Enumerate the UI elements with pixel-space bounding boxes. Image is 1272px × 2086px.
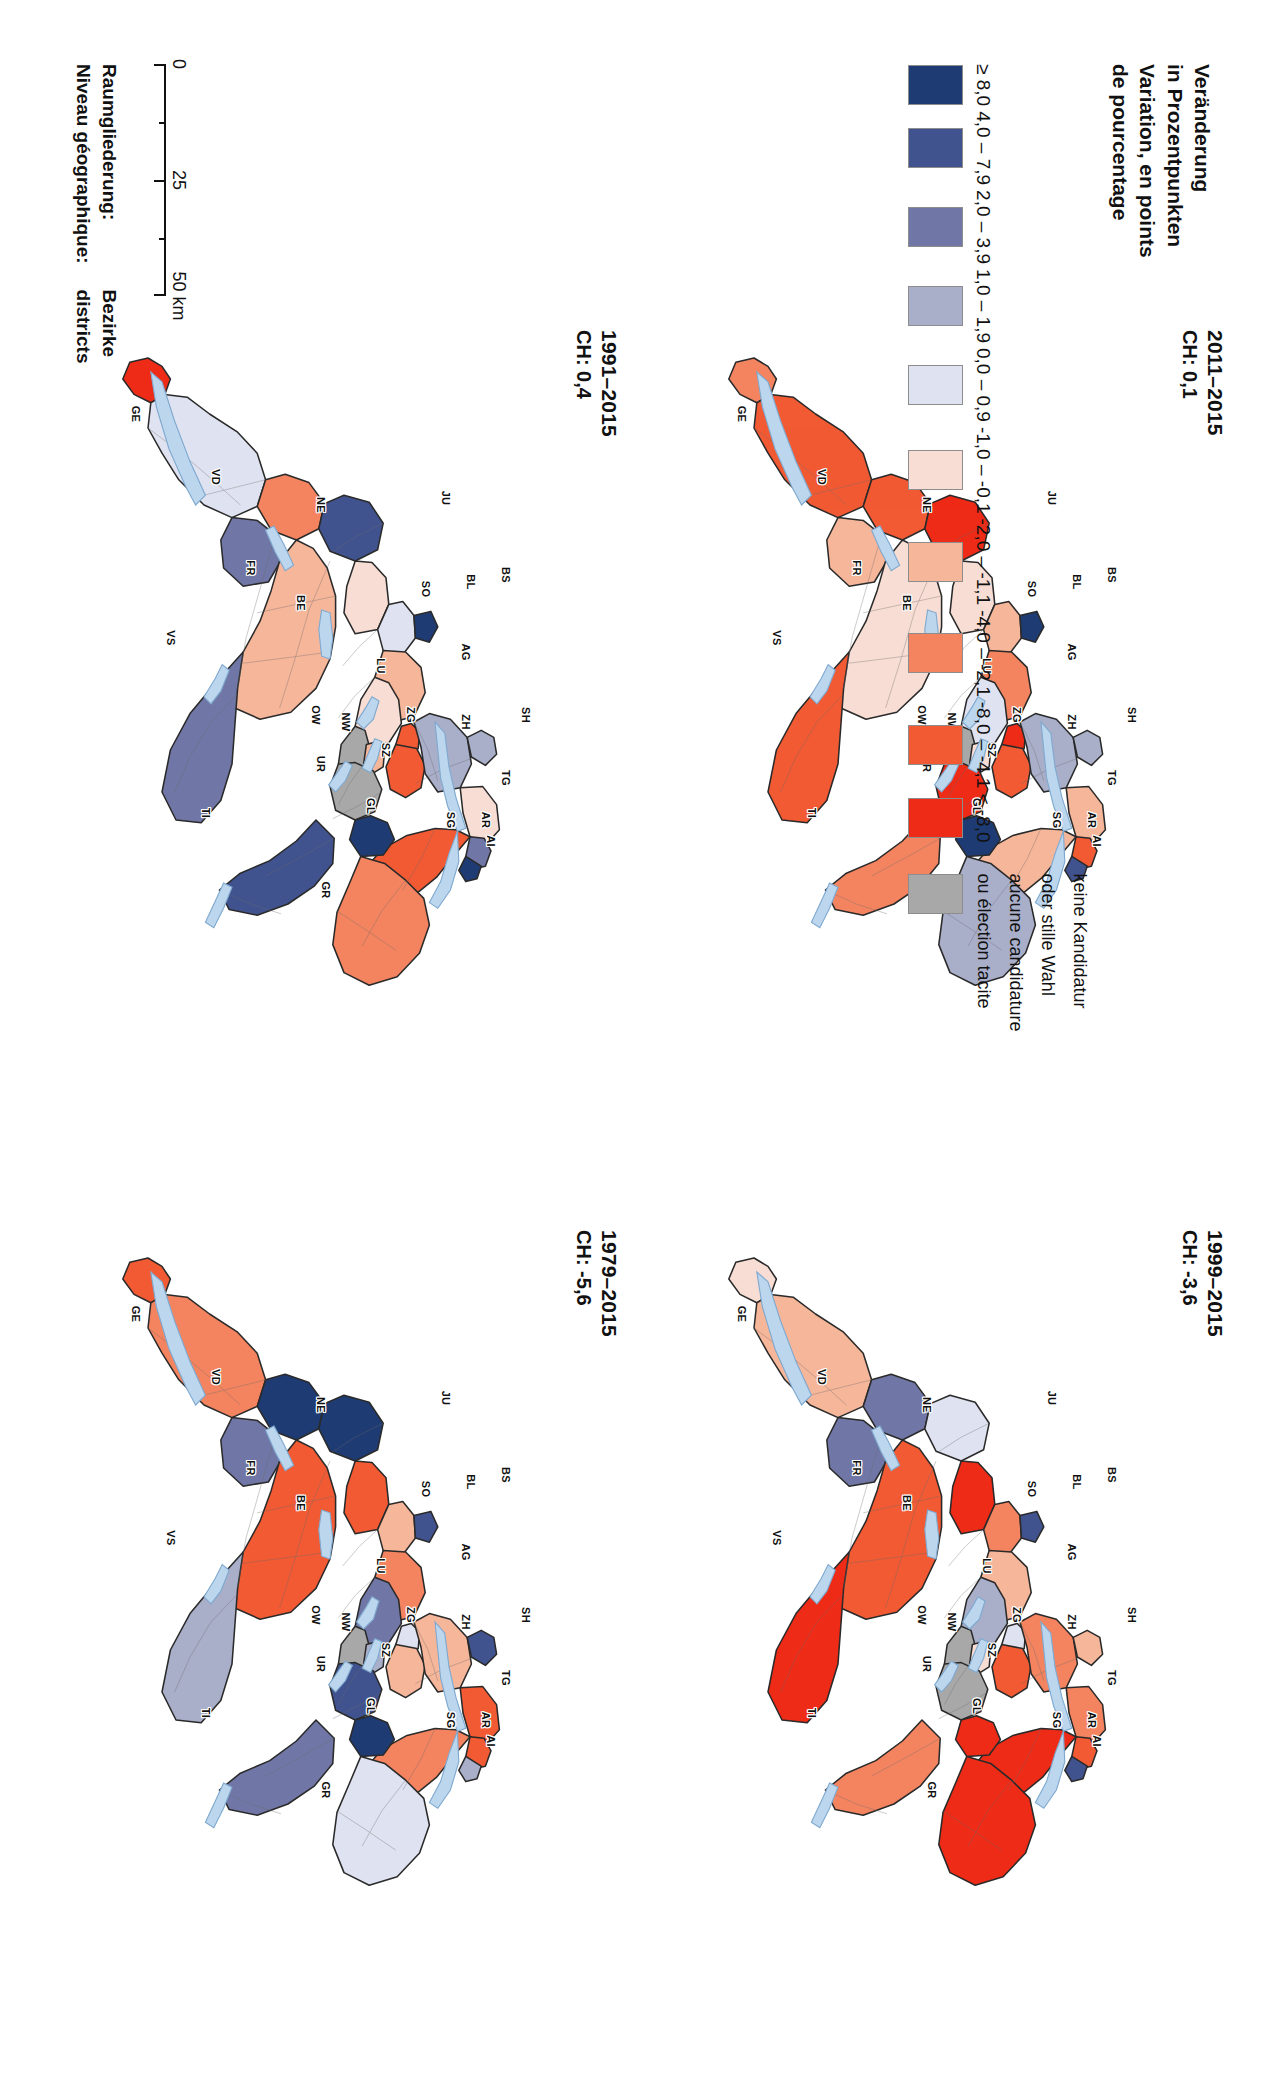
- legend-class-label: < -8,0: [972, 793, 994, 842]
- choropleth-map-1979-2015[interactable]: GEVDNEJUFRBEVSSOBLBSAGLUOWNWURZGSZZHSHTG…: [66, 1230, 566, 1930]
- legend-class-swatch: [908, 450, 963, 490]
- legend-title-fr-2: de pourcentage: [1107, 64, 1134, 1032]
- map-svg: [66, 1230, 566, 1930]
- canton-area-BS[interactable]: [414, 1511, 438, 1542]
- legend-class-swatch: [908, 798, 963, 838]
- map-panel-1979-2015: 1979–2015 CH: -5,6: [571, 1230, 622, 1337]
- legend-class-item: 1,0 – 1,9: [908, 269, 994, 343]
- scale-tick-label-50: 50 km: [168, 271, 189, 320]
- geo-label-de: Raumgliederung:: [96, 64, 122, 264]
- panel-subtitle: CH: 0,4: [571, 330, 596, 437]
- legend-no-data-line1: keine Kandidatur: [1068, 874, 1091, 1032]
- legend-class-label: 1,0 – 1,9: [972, 269, 994, 343]
- legend-class-swatch: [908, 725, 963, 765]
- legend-class-item: 0,0 – 0,9: [908, 348, 994, 422]
- scale-tick-label-25: 25: [168, 170, 189, 190]
- legend-class-swatch: [908, 633, 963, 673]
- canton-area-VS[interactable]: [768, 1552, 849, 1723]
- legend-class-label: -8,0 – -4,1: [972, 702, 994, 789]
- legend-class-swatch: [908, 65, 963, 105]
- geo-value-de: Bezirke: [96, 264, 122, 364]
- scale-tick-major-0: [154, 64, 166, 66]
- legend-class-item: -2,0 – -1,1: [908, 519, 994, 606]
- legend-class-swatch: [908, 365, 963, 405]
- canton-area-SH[interactable]: [467, 1630, 496, 1665]
- geo-value-fr: districts: [71, 264, 97, 364]
- legend-title-fr-1: Variation, en points: [1134, 64, 1161, 1032]
- choropleth-map-1999-2015[interactable]: GEVDNEJUFRBEVSSOBLBSAGLUOWNWURZGSZZHSHTG…: [672, 1230, 1172, 1930]
- legend-class-item: 2,0 – 3,9: [908, 190, 994, 264]
- scale-tick-major-25: [154, 180, 166, 182]
- legend-class-label: -2,0 – -1,1: [972, 519, 994, 606]
- canton-area-SH[interactable]: [467, 730, 496, 765]
- canton-area-SH[interactable]: [1073, 1630, 1102, 1665]
- legend-class-label: -4,0 – -2,1: [972, 610, 994, 697]
- panel-title: 1979–2015: [596, 1230, 622, 1337]
- choropleth-map-1991-2015[interactable]: GEVDNEJUFRBEVSSOBLBSAGLUOWNWURZGSZZHSHTG…: [66, 330, 566, 1030]
- map-panel-1991-2015: 1991–2015 CH: 0,4: [571, 330, 622, 437]
- canton-area-BS[interactable]: [1020, 1511, 1044, 1542]
- map-svg: [66, 330, 566, 1030]
- map-panel-1999-2015: 1999–2015 CH: -3,6: [1177, 1230, 1228, 1337]
- legend-class-item: -8,0 – -4,1: [908, 702, 994, 789]
- canton-area-VS[interactable]: [162, 652, 243, 823]
- legend-class-swatch: [908, 542, 963, 582]
- scale-tick-minor-1: [159, 122, 166, 124]
- legend-class-label: ≥ 8,0: [972, 64, 994, 106]
- canton-area-TI[interactable]: [219, 820, 334, 915]
- legend-class-item: ≥ 8,0: [908, 64, 994, 106]
- scale-bar-labels: 0 25 50 km: [168, 64, 192, 296]
- panel-subtitle: CH: -3,6: [1177, 1230, 1202, 1337]
- scale-tick-label-0: 0: [168, 59, 189, 69]
- scale-bar-line: [152, 64, 166, 296]
- legend-class-item: < -8,0: [908, 793, 994, 842]
- legend-no-data-line4: ou élection tacite: [972, 874, 995, 1032]
- canton-area-SZ[interactable]: [386, 1644, 425, 1697]
- geographic-level: Raumgliederung: Bezirke Niveau géographi…: [71, 64, 122, 363]
- scale-tick-major-50: [154, 294, 166, 296]
- legend-class-swatch: [908, 207, 963, 247]
- legend-class-label: 2,0 – 3,9: [972, 190, 994, 264]
- map-svg: [672, 1230, 1172, 1930]
- panel-subtitle: CH: -5,6: [571, 1230, 596, 1337]
- legend-no-data-line3: aucune candidature: [1004, 874, 1027, 1032]
- panel-title: 1991–2015: [596, 330, 622, 437]
- canton-area-SZ[interactable]: [386, 744, 425, 797]
- legend: Veränderung in Prozentpunkten Variation,…: [908, 64, 1216, 1032]
- legend-swatch-row: ≥ 8,04,0 – 7,92,0 – 3,91,0 – 1,90,0 – 0,…: [908, 64, 1091, 1032]
- scale-tick-minor-2: [159, 238, 166, 240]
- panel-title: 1999–2015: [1202, 1230, 1228, 1337]
- canton-area-VS[interactable]: [162, 1552, 243, 1723]
- legend-no-data-item: keine Kandidatur oder stille Wahl aucune…: [908, 874, 1091, 1032]
- legend-no-data-line2: oder stille Wahl: [1036, 874, 1059, 1032]
- geo-label-fr: Niveau géographique:: [71, 64, 97, 264]
- legend-class-label: 0,0 – 0,9: [972, 348, 994, 422]
- canton-area-VS[interactable]: [768, 652, 849, 823]
- canton-area-TI[interactable]: [825, 1720, 940, 1815]
- legend-class-item: 4,0 – 7,9: [908, 111, 994, 185]
- legend-class-swatch: [908, 128, 963, 168]
- scale-bar: 0 25 50 km: [152, 64, 192, 296]
- legend-no-data-swatch: [908, 874, 963, 914]
- canton-area-TI[interactable]: [219, 1720, 334, 1815]
- atlas-page: 2011–2015 CH: 0,1 GEVDNEJUFRBEVSSOBLBSAG…: [0, 0, 1272, 2086]
- canton-area-BS[interactable]: [414, 611, 438, 642]
- legend-title-de-2: in Prozentpunkten: [1161, 64, 1188, 1032]
- legend-class-swatch: [908, 286, 963, 326]
- legend-title-de-1: Veränderung: [1189, 64, 1216, 1032]
- legend-class-item: -4,0 – -2,1: [908, 610, 994, 697]
- canton-area-SZ[interactable]: [992, 1644, 1031, 1697]
- legend-class-label: 4,0 – 7,9: [972, 111, 994, 185]
- legend-class-item: -1,0 – -0,1: [908, 427, 994, 514]
- legend-class-label: -1,0 – -0,1: [972, 427, 994, 514]
